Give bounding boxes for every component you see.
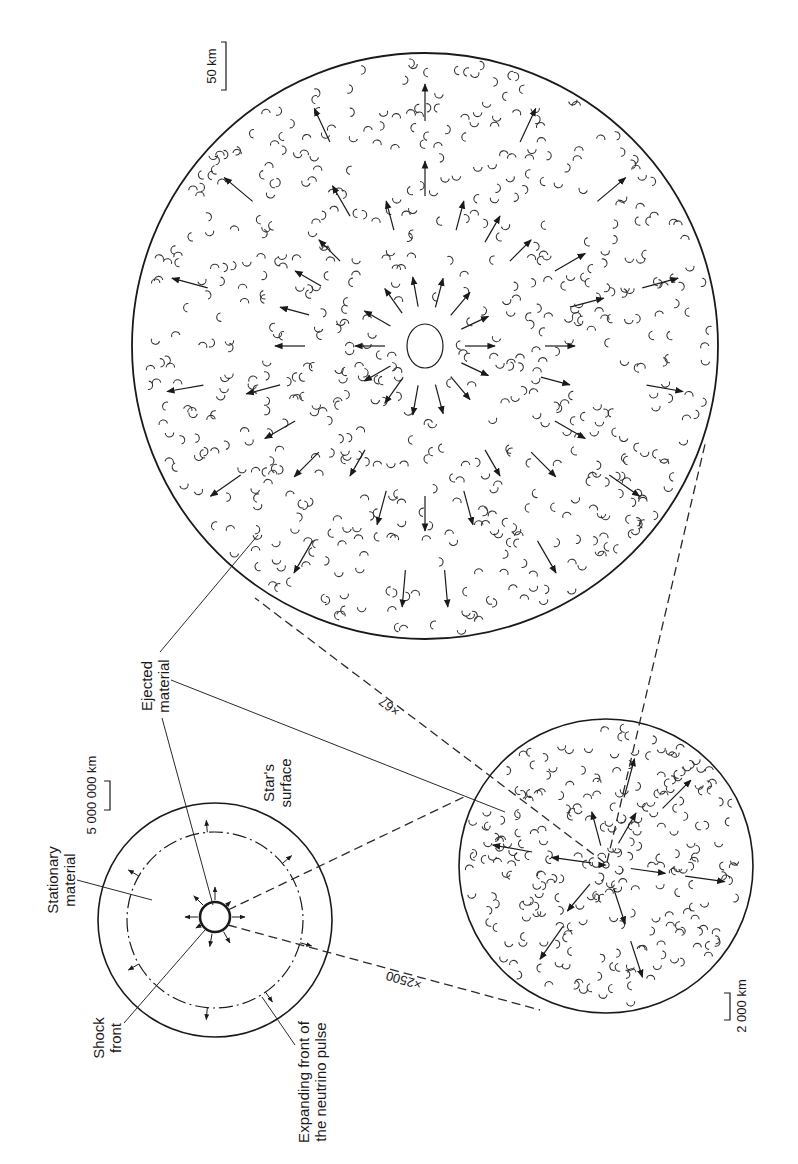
scale-bar-5000000km <box>104 781 110 810</box>
scale-bar-50km <box>221 42 226 90</box>
leader-stationary <box>77 880 152 900</box>
shock-front-core <box>200 902 230 932</box>
leader-ejected-large <box>160 535 258 652</box>
leader-neutrino-pulse <box>262 997 295 1045</box>
turbulence-marks <box>465 724 740 1006</box>
zoom-line-left-67 <box>255 598 605 863</box>
middle-circle-panel: 2 000 km <box>459 719 753 1033</box>
scale-label-5000000km: 5 000 000 km <box>84 756 99 835</box>
diagram-stage: 50 km 2 000 km 5 000 000 km <box>0 0 798 1164</box>
scale-label-2000km: 2 000 km <box>734 979 749 1032</box>
supernova-diagram: 50 km 2 000 km 5 000 000 km <box>0 0 798 1164</box>
zoom-line-upper-2500 <box>228 795 468 910</box>
star-surface-ring <box>98 803 332 1037</box>
neutrino-front-ring <box>127 832 303 1008</box>
connector-lines <box>77 440 706 1045</box>
label-neutrino-1: Expanding front of <box>295 1020 312 1143</box>
labels: Stationary material Shock front Expandin… <box>44 659 423 1143</box>
label-ejected-2: material <box>155 659 172 712</box>
neutrino-front-arrows <box>128 820 311 1019</box>
large-ejecta-region <box>132 53 718 639</box>
large-circle-panel: 50 km <box>132 42 718 639</box>
label-shock-2: front <box>107 1022 124 1053</box>
label-surface-1: Star's <box>260 764 277 802</box>
label-stationary-2: material <box>61 853 78 906</box>
neutron-star-core <box>407 324 443 368</box>
turbulence-marks <box>146 58 712 634</box>
label-stationary-1: Stationary <box>44 846 61 914</box>
zoom-line-right-67 <box>607 440 706 862</box>
zoom-line-lower-2500 <box>228 925 540 1010</box>
middle-ejecta-region <box>459 719 753 1013</box>
label-neutrino-2: the neutrino pulse <box>312 1022 329 1141</box>
label-shock-1: Shock <box>90 1017 107 1059</box>
leader-ejected-middle <box>171 680 505 812</box>
label-magnification-67: ×67 <box>376 694 403 719</box>
label-ejected-1: Ejected <box>138 661 155 711</box>
star-panel: 5 000 000 km <box>84 756 332 1037</box>
leader-shock-front <box>124 930 205 1023</box>
label-surface-2: surface <box>277 758 294 807</box>
scale-label-50km: 50 km <box>204 48 219 83</box>
core-arrows <box>185 887 245 947</box>
label-magnification-2500: ×2500 <box>384 968 423 992</box>
scale-bar-2000km <box>724 993 730 1020</box>
